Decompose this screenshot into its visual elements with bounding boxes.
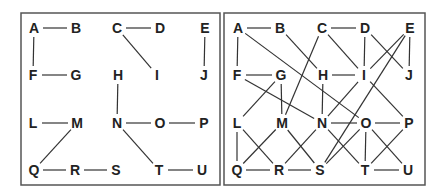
node-A: A bbox=[233, 20, 243, 36]
node-M: M bbox=[71, 115, 83, 131]
edge-G-M bbox=[281, 84, 282, 114]
node-I: I bbox=[362, 67, 366, 83]
node-Q: Q bbox=[29, 162, 40, 178]
edge-C-M bbox=[285, 36, 318, 114]
node-Q: Q bbox=[232, 162, 243, 178]
edges bbox=[33, 28, 205, 170]
node-L: L bbox=[29, 115, 38, 131]
node-L: L bbox=[233, 115, 242, 131]
node-F: F bbox=[233, 67, 242, 83]
node-H: H bbox=[113, 67, 123, 83]
edge-A-F bbox=[33, 37, 34, 66]
node-S: S bbox=[111, 162, 120, 178]
edge-C-I bbox=[328, 35, 358, 69]
node-N: N bbox=[317, 115, 327, 131]
edge-F-N bbox=[245, 79, 314, 118]
node-N: N bbox=[112, 115, 122, 131]
edge-D-I bbox=[364, 37, 365, 66]
diagram-canvas: ABCDEFGHIJLMNOPQRSTU ABCDEFGHIJLMNOPQRST… bbox=[0, 0, 442, 194]
node-B: B bbox=[71, 20, 81, 36]
node-C: C bbox=[317, 20, 327, 36]
edge-A-F bbox=[237, 37, 238, 66]
panel-frame bbox=[224, 13, 425, 185]
node-T: T bbox=[361, 162, 370, 178]
node-G: G bbox=[71, 67, 82, 83]
node-P: P bbox=[199, 115, 208, 131]
edge-M-Q bbox=[40, 130, 71, 164]
node-U: U bbox=[197, 162, 207, 178]
edge-I-P bbox=[370, 82, 403, 117]
node-U: U bbox=[403, 162, 413, 178]
nodes: ABCDEFGHIJLMNOPQRSTU bbox=[29, 20, 210, 178]
node-C: C bbox=[112, 20, 122, 36]
node-R: R bbox=[70, 162, 80, 178]
node-E: E bbox=[405, 20, 414, 36]
edge-H-N bbox=[322, 84, 323, 114]
node-G: G bbox=[276, 67, 287, 83]
node-M: M bbox=[276, 115, 288, 131]
node-T: T bbox=[155, 162, 164, 178]
node-P: P bbox=[404, 115, 413, 131]
edges bbox=[237, 28, 410, 170]
edge-O-T bbox=[365, 132, 366, 161]
node-D: D bbox=[360, 20, 370, 36]
node-O: O bbox=[361, 115, 372, 131]
node-E: E bbox=[200, 20, 209, 36]
edge-I-N bbox=[328, 82, 358, 116]
panel-dense-graph: ABCDEFGHIJLMNOPQRSTU bbox=[224, 13, 425, 185]
node-D: D bbox=[155, 20, 165, 36]
node-R: R bbox=[274, 162, 284, 178]
graph-diagram: ABCDEFGHIJLMNOPQRSTU ABCDEFGHIJLMNOPQRST… bbox=[0, 0, 442, 194]
edge-H-N bbox=[117, 84, 118, 114]
panel-frame bbox=[21, 13, 220, 185]
node-H: H bbox=[318, 67, 328, 83]
node-F: F bbox=[29, 67, 38, 83]
node-J: J bbox=[405, 67, 413, 83]
node-I: I bbox=[155, 67, 159, 83]
node-A: A bbox=[29, 20, 39, 36]
edge-C-I bbox=[123, 35, 151, 68]
node-B: B bbox=[275, 20, 285, 36]
panel-sparse-graph: ABCDEFGHIJLMNOPQRSTU bbox=[21, 13, 220, 185]
edge-E-J bbox=[409, 37, 410, 66]
edge-E-J bbox=[204, 37, 205, 66]
edge-N-T bbox=[123, 130, 153, 164]
node-S: S bbox=[315, 162, 324, 178]
node-J: J bbox=[200, 67, 208, 83]
node-O: O bbox=[155, 115, 166, 131]
